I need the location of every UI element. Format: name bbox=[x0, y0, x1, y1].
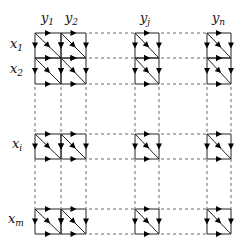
grid-diagram: y1 y2 yj yn x1 x2 xi xm bbox=[0, 0, 246, 245]
arrow-right-icon bbox=[45, 131, 51, 137]
arrow-down-icon bbox=[204, 219, 210, 225]
arrow-down-icon bbox=[58, 144, 64, 150]
arrow-right-icon bbox=[71, 231, 77, 237]
arrow-down-icon bbox=[228, 144, 234, 150]
arrow-right-icon bbox=[144, 206, 150, 212]
arrow-down-icon bbox=[132, 43, 138, 49]
row-label-xm: xm bbox=[8, 211, 24, 228]
column-label-y2: y2 bbox=[64, 10, 78, 27]
arrow-down-icon bbox=[156, 144, 162, 150]
row-label-xi: xi bbox=[12, 136, 22, 153]
arrow-right-icon bbox=[216, 55, 222, 61]
arrow-right-icon bbox=[45, 81, 51, 87]
arrow-right-icon bbox=[216, 231, 222, 237]
arrow-right-icon bbox=[216, 206, 222, 212]
row-label-x2: x2 bbox=[10, 61, 23, 78]
arrow-right-icon bbox=[216, 81, 222, 87]
arrow-right-icon bbox=[216, 131, 222, 137]
arrow-down-icon bbox=[156, 43, 162, 49]
arrow-right-icon bbox=[45, 30, 51, 36]
arrow-right-icon bbox=[45, 231, 51, 237]
arrow-down-icon bbox=[228, 68, 234, 74]
arrow-right-icon bbox=[71, 131, 77, 137]
arrow-down-icon bbox=[132, 144, 138, 150]
arrow-down-icon bbox=[83, 43, 89, 49]
grid-cells bbox=[35, 33, 231, 234]
arrow-down-icon bbox=[156, 219, 162, 225]
arrow-right-icon bbox=[144, 55, 150, 61]
arrow-down-icon bbox=[83, 144, 89, 150]
arrow-down-icon bbox=[156, 68, 162, 74]
arrow-right-icon bbox=[71, 55, 77, 61]
column-label-y1: y1 bbox=[40, 10, 54, 27]
arrow-down-icon bbox=[32, 68, 38, 74]
arrow-down-icon bbox=[204, 144, 210, 150]
arrow-right-icon bbox=[144, 131, 150, 137]
arrow-down-icon bbox=[83, 68, 89, 74]
arrow-right-icon bbox=[45, 55, 51, 61]
arrow-right-icon bbox=[45, 156, 51, 162]
arrow-down-icon bbox=[32, 43, 38, 49]
column-label-yj: yj bbox=[139, 10, 150, 27]
arrow-right-icon bbox=[216, 30, 222, 36]
arrow-right-icon bbox=[216, 156, 222, 162]
arrow-down-icon bbox=[132, 219, 138, 225]
arrow-down-icon bbox=[58, 43, 64, 49]
arrow-right-icon bbox=[45, 206, 51, 212]
arrow-down-icon bbox=[228, 219, 234, 225]
arrow-down-icon bbox=[58, 219, 64, 225]
column-label-yn: yn bbox=[211, 10, 225, 27]
arrow-right-icon bbox=[144, 231, 150, 237]
arrow-down-icon bbox=[204, 43, 210, 49]
arrow-down-icon bbox=[132, 68, 138, 74]
arrow-right-icon bbox=[71, 81, 77, 87]
row-label-x1: x1 bbox=[10, 36, 23, 53]
arrow-down-icon bbox=[228, 43, 234, 49]
arrow-right-icon bbox=[144, 30, 150, 36]
arrow-down-icon bbox=[204, 68, 210, 74]
arrow-right-icon bbox=[71, 30, 77, 36]
axis-labels: y1 y2 yj yn x1 x2 xi xm bbox=[8, 10, 225, 228]
arrow-down-icon bbox=[32, 144, 38, 150]
arrow-right-icon bbox=[144, 156, 150, 162]
arrow-down-icon bbox=[58, 68, 64, 74]
arrow-right-icon bbox=[71, 156, 77, 162]
arrow-down-icon bbox=[83, 219, 89, 225]
arrow-right-icon bbox=[71, 206, 77, 212]
arrow-down-icon bbox=[32, 219, 38, 225]
arrow-right-icon bbox=[144, 81, 150, 87]
